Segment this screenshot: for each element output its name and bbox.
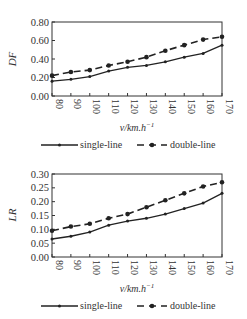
x-tick-label: 120	[129, 99, 140, 114]
data-point-marker	[107, 70, 110, 73]
data-point-marker	[50, 73, 55, 78]
plot-frame	[52, 22, 222, 96]
y-tick-label: 0.20	[31, 72, 49, 83]
x-tick-label: 140	[167, 99, 178, 114]
x-tick-label: 160	[205, 260, 216, 275]
lr-chart: 0.000.050.100.150.200.250.30809010011012…	[6, 169, 235, 312]
x-axis-label: v/km.h−1	[120, 121, 155, 133]
x-axis-label: v/km.h−1	[120, 282, 155, 294]
x-tick-label: 100	[91, 260, 102, 275]
data-point-marker	[221, 192, 224, 195]
y-tick-label: 0.00	[31, 252, 49, 263]
x-tick-label: 170	[224, 99, 235, 114]
data-point-marker	[163, 48, 168, 53]
data-point-marker	[69, 235, 72, 238]
data-point-marker	[51, 80, 54, 83]
single-line-series	[52, 45, 222, 81]
y-tick-label: 0.15	[31, 210, 49, 221]
data-point-marker	[202, 52, 205, 55]
data-point-marker	[201, 184, 206, 189]
plot-frame	[52, 174, 222, 257]
y-tick-label: 0.20	[31, 196, 49, 207]
data-point-marker	[183, 207, 186, 210]
y-tick-label: 0.00	[31, 91, 49, 102]
data-point-marker	[126, 220, 129, 223]
x-tick-label: 160	[205, 99, 216, 114]
chart-figure: 0.000.200.400.600.8080901001101201301401…	[0, 0, 247, 319]
x-tick-label: 80	[54, 99, 65, 109]
y-tick-label: 0.80	[31, 17, 49, 28]
data-point-marker	[201, 37, 206, 42]
single-line-series	[52, 193, 222, 239]
data-point-marker	[88, 231, 91, 234]
data-point-marker	[107, 224, 110, 227]
y-tick-label: 0.10	[31, 224, 49, 235]
data-point-marker	[126, 66, 129, 69]
y-tick-label: 0.40	[31, 54, 49, 65]
data-point-marker	[69, 70, 74, 75]
y-tick-label: 0.25	[31, 182, 49, 193]
data-point-marker	[164, 213, 167, 216]
legend-single-line-label: single-line	[80, 300, 123, 311]
data-point-marker	[145, 64, 148, 67]
data-point-marker	[220, 180, 225, 185]
data-point-marker	[183, 56, 186, 59]
data-point-marker	[182, 43, 187, 48]
x-tick-label: 130	[148, 260, 159, 275]
y-tick-label: 0.30	[31, 169, 49, 180]
x-tick-label: 130	[148, 99, 159, 114]
data-point-marker	[69, 78, 72, 81]
data-point-marker	[88, 75, 91, 78]
df-chart: 0.000.200.400.600.8080901001101201301401…	[6, 17, 235, 151]
x-tick-label: 80	[54, 260, 65, 270]
y-tick-label: 0.05	[31, 238, 49, 249]
data-point-marker	[50, 228, 55, 233]
x-tick-label: 110	[110, 99, 121, 114]
x-tick-label: 140	[167, 260, 178, 275]
data-point-marker	[106, 63, 111, 68]
data-point-marker	[164, 60, 167, 63]
data-point-marker	[125, 59, 130, 64]
data-point-marker	[51, 238, 54, 241]
x-tick-label: 150	[186, 99, 197, 114]
double-line-series	[52, 37, 222, 76]
data-point-marker	[144, 205, 149, 210]
data-point-marker	[145, 217, 148, 220]
legend-single-line-label: single-line	[80, 139, 123, 150]
data-point-marker	[182, 191, 187, 196]
data-point-marker	[125, 212, 130, 217]
x-tick-label: 170	[224, 260, 235, 275]
y-tick-label: 0.60	[31, 35, 49, 46]
data-point-marker	[87, 68, 92, 73]
data-point-marker	[163, 198, 168, 203]
y-axis-label: LR	[6, 208, 18, 222]
data-point-marker	[220, 35, 225, 40]
x-tick-label: 120	[129, 260, 140, 275]
data-point-marker	[106, 216, 111, 221]
data-point-marker	[144, 55, 149, 60]
x-tick-label: 100	[91, 99, 102, 114]
data-point-marker	[221, 44, 224, 47]
data-point-marker	[69, 224, 74, 229]
data-point-marker	[87, 222, 92, 227]
data-point-marker	[202, 202, 205, 205]
x-tick-label: 90	[72, 260, 83, 270]
legend-double-line-label: double-line	[170, 300, 216, 311]
x-tick-label: 110	[110, 260, 121, 275]
x-tick-label: 150	[186, 260, 197, 275]
legend-double-line-label: double-line	[170, 139, 216, 150]
double-line-series	[52, 182, 222, 230]
x-tick-label: 90	[72, 99, 83, 109]
y-axis-label: DF	[6, 51, 18, 67]
